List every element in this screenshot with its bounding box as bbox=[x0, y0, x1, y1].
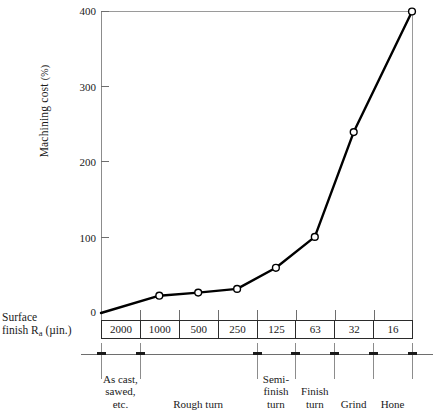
x-axis-title-line1: Surface bbox=[2, 311, 98, 324]
x-axis-title-ra: finish R bbox=[2, 324, 39, 336]
data-line bbox=[101, 12, 412, 314]
x-axis-cell-1000: 1000 bbox=[141, 321, 180, 338]
x-axis-cell-32: 32 bbox=[335, 321, 374, 338]
machining-cost-chart: Machining cost (%) 400 300 200 100 0 bbox=[0, 0, 433, 410]
x-axis-value-table: 20001000500250125633216 bbox=[101, 320, 413, 339]
process-band-line: Semi- bbox=[257, 373, 296, 386]
process-band-label-2: Semi-finishturn bbox=[257, 373, 296, 410]
process-band-label-5: Hone bbox=[373, 398, 412, 410]
process-band-line: sawed, bbox=[101, 385, 140, 398]
process-band-label-1: Rough turn bbox=[140, 398, 257, 410]
x-axis-cell-250: 250 bbox=[219, 321, 258, 338]
data-point-250 bbox=[234, 286, 241, 293]
x-axis-cell-125: 125 bbox=[258, 321, 297, 338]
process-band-arrow bbox=[97, 352, 106, 355]
data-point-125 bbox=[273, 264, 280, 271]
process-band-arrow bbox=[136, 352, 145, 355]
data-point-32 bbox=[350, 129, 357, 136]
process-band-divider bbox=[101, 343, 102, 379]
process-band-arrow bbox=[253, 352, 262, 355]
process-band-label-0: As cast,sawed,etc. bbox=[101, 373, 140, 410]
x-axis-cell-63: 63 bbox=[296, 321, 335, 338]
process-band-arrow bbox=[369, 352, 378, 355]
process-band-divider bbox=[140, 343, 141, 379]
process-band-line: Finish bbox=[295, 385, 334, 398]
process-band-divider bbox=[373, 343, 374, 379]
process-band-line: etc. bbox=[101, 398, 140, 410]
process-band-line: finish bbox=[257, 385, 296, 398]
process-band-arrow bbox=[408, 352, 417, 355]
process-band: As cast,sawed,etc.Rough turnSemi-finisht… bbox=[101, 343, 413, 410]
x-axis-title-line2: finish Ra (µin.) bbox=[2, 324, 98, 340]
x-axis-cell-500: 500 bbox=[180, 321, 219, 338]
data-markers bbox=[156, 8, 416, 299]
process-band-divider bbox=[295, 343, 296, 379]
x-axis-cell-2000: 2000 bbox=[102, 321, 141, 338]
x-tick-marks bbox=[141, 310, 375, 320]
data-point-500 bbox=[195, 289, 202, 296]
process-band-arrow bbox=[291, 352, 300, 355]
x-axis-title-unit: (µin.) bbox=[43, 324, 72, 336]
process-band-label-4: Grind bbox=[334, 398, 373, 410]
process-band-divider bbox=[334, 343, 335, 379]
process-band-line: turn bbox=[295, 398, 334, 410]
data-point-16 bbox=[409, 8, 416, 15]
process-band-divider bbox=[412, 343, 413, 379]
process-band-line: Rough turn bbox=[140, 398, 257, 410]
x-axis-title: Surface finish Ra (µin.) bbox=[2, 311, 98, 339]
data-point-63 bbox=[311, 234, 318, 241]
process-band-line: As cast, bbox=[101, 373, 140, 386]
process-band-line: turn bbox=[257, 398, 296, 410]
x-axis-cell-16: 16 bbox=[374, 321, 412, 338]
process-band-line: Grind bbox=[334, 398, 373, 410]
data-point-1000 bbox=[156, 292, 163, 299]
process-band-label-3: Finishturn bbox=[295, 385, 334, 410]
process-band-line: Hone bbox=[373, 398, 412, 410]
process-band-arrow bbox=[330, 352, 339, 355]
